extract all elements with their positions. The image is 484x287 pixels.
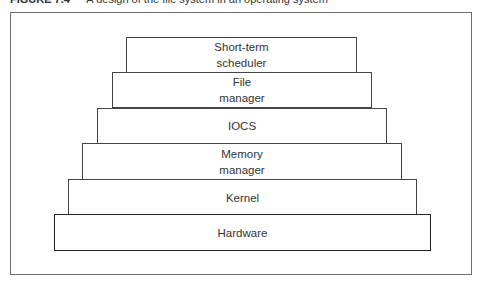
layer-hardware: Hardware [54, 214, 431, 251]
layer-label: Memory manager [219, 146, 264, 178]
layer-kernel: Kernel [68, 179, 417, 216]
layer-short-term-scheduler: Short-term scheduler [126, 37, 357, 73]
layer-iocs: IOCS [97, 108, 387, 144]
figure-caption: FIGURE 7.4 A design of the file system i… [10, 0, 328, 6]
layer-label: Kernel [226, 190, 259, 206]
layer-label: File manager [219, 74, 264, 106]
layer-label: Short-term scheduler [214, 39, 268, 71]
figure-label: FIGURE 7.4 [10, 0, 70, 5]
figure-caption-text: A design of the file system in an operat… [86, 0, 328, 5]
figure-caption-clip: FIGURE 7.4 A design of the file system i… [0, 0, 484, 7]
layer-label: IOCS [228, 118, 256, 134]
layer-file-manager: File manager [112, 72, 372, 108]
layer-label: Hardware [218, 225, 268, 241]
layer-memory-manager: Memory manager [82, 143, 402, 180]
